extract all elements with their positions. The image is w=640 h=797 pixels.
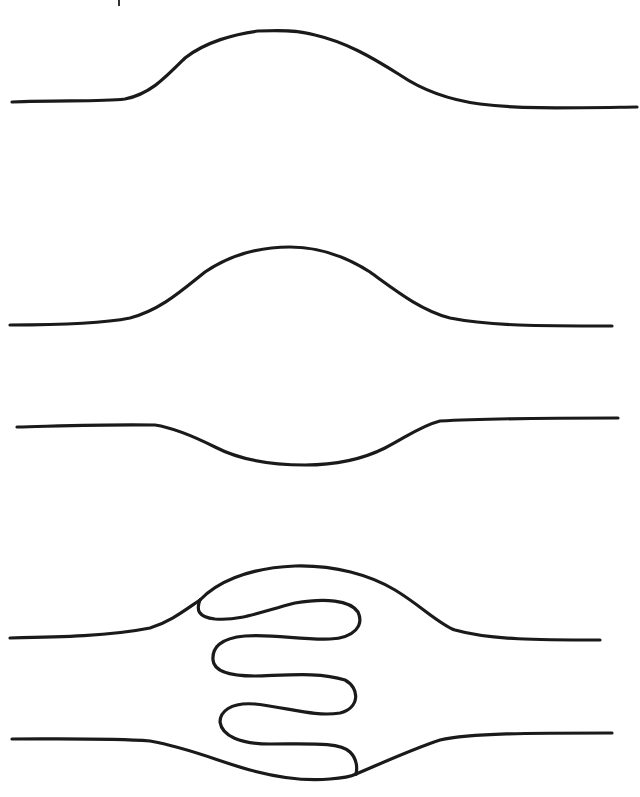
curve-1-bump [12,30,637,107]
wave-diagram [0,0,640,797]
curve-3-dip [17,418,618,465]
curve-4-upper-arc [200,566,600,640]
curve-2-bump [10,247,612,326]
curve-4-lower-arc [356,733,612,774]
curve-4-serpentine-loop [198,600,360,774]
curve-4-upper-line [10,600,200,638]
